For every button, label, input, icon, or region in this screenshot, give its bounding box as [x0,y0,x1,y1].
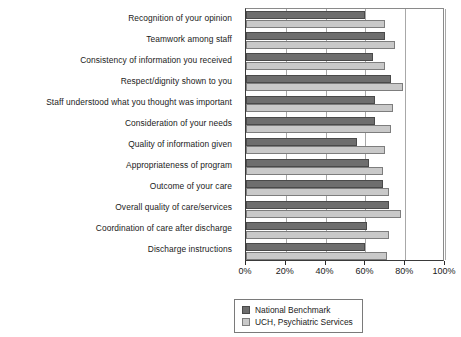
bars-layer [246,9,443,260]
bar-uch-psychiatric-services [246,125,391,133]
bar-group [246,51,443,72]
bar-group [246,30,443,51]
bar-uch-psychiatric-services [246,231,389,239]
category-label: Consistency of information you received [0,56,232,65]
bar-uch-psychiatric-services [246,188,389,196]
legend-label: UCH, Psychiatric Services [255,317,353,327]
bar-national-benchmark [246,159,369,167]
bar-national-benchmark [246,75,391,83]
x-tick-label: 20% [276,266,294,277]
bar-national-benchmark [246,117,375,125]
category-label: Respect/dignity shown to you [0,77,232,86]
bar-uch-psychiatric-services [246,104,393,112]
x-tick-mark [285,261,286,265]
x-tick-label: 60% [355,266,373,277]
bar-uch-psychiatric-services [246,252,387,260]
bar-group [246,114,443,135]
bar-national-benchmark [246,138,357,146]
x-tick-mark [364,261,365,265]
category-axis-labels: Recognition of your opinionTeamwork amon… [0,8,238,261]
x-tick-label: 100% [432,266,455,277]
horizontal-bar-chart: Recognition of your opinionTeamwork amon… [0,0,461,337]
category-label: Consideration of your needs [0,119,232,128]
bar-group [246,199,443,220]
bar-national-benchmark [246,201,389,209]
x-tick-label: 80% [395,266,413,277]
bar-uch-psychiatric-services [246,41,395,49]
x-tick-label: 0% [238,266,251,277]
bar-group [246,72,443,93]
bar-national-benchmark [246,32,385,40]
bar-group [246,93,443,114]
bar-group [246,9,443,30]
x-tick-mark [325,261,326,265]
x-axis: 0%20%40%60%80%100% [245,261,444,283]
bar-group [246,241,443,262]
bar-uch-psychiatric-services [246,210,401,218]
category-label: Outcome of your care [0,182,232,191]
gridline-100 [445,9,446,260]
bar-national-benchmark [246,180,383,188]
category-label: Recognition of your opinion [0,14,232,23]
bar-uch-psychiatric-services [246,83,403,91]
x-tick-mark [444,261,445,265]
bar-national-benchmark [246,222,367,230]
category-label: Overall quality of care/services [0,203,232,212]
bar-uch-psychiatric-services [246,20,385,28]
bar-uch-psychiatric-services [246,167,383,175]
category-label: Discharge instructions [0,245,232,254]
chart-legend: National BenchmarkUCH, Psychiatric Servi… [234,299,363,333]
category-label: Teamwork among staff [0,35,232,44]
x-tick-label: 40% [316,266,334,277]
plot-area [245,8,444,261]
category-label: Quality of information given [0,140,232,149]
legend-label: National Benchmark [255,305,330,315]
category-label: Staff understood what you thought was im… [0,98,232,107]
legend-item: National Benchmark [242,304,353,316]
legend-item: UCH, Psychiatric Services [242,316,353,328]
bar-national-benchmark [246,243,365,251]
category-label: Appropriateness of program [0,161,232,170]
bar-group [246,220,443,241]
x-tick-mark [245,261,246,265]
bar-national-benchmark [246,96,375,104]
bar-national-benchmark [246,53,373,61]
legend-swatch-icon [242,318,250,326]
category-label: Coordination of care after discharge [0,224,232,233]
bar-uch-psychiatric-services [246,146,385,154]
legend-swatch-icon [242,306,250,314]
x-tick-mark [404,261,405,265]
bar-uch-psychiatric-services [246,62,385,70]
bar-group [246,157,443,178]
bar-national-benchmark [246,11,365,19]
bar-group [246,136,443,157]
bar-group [246,178,443,199]
